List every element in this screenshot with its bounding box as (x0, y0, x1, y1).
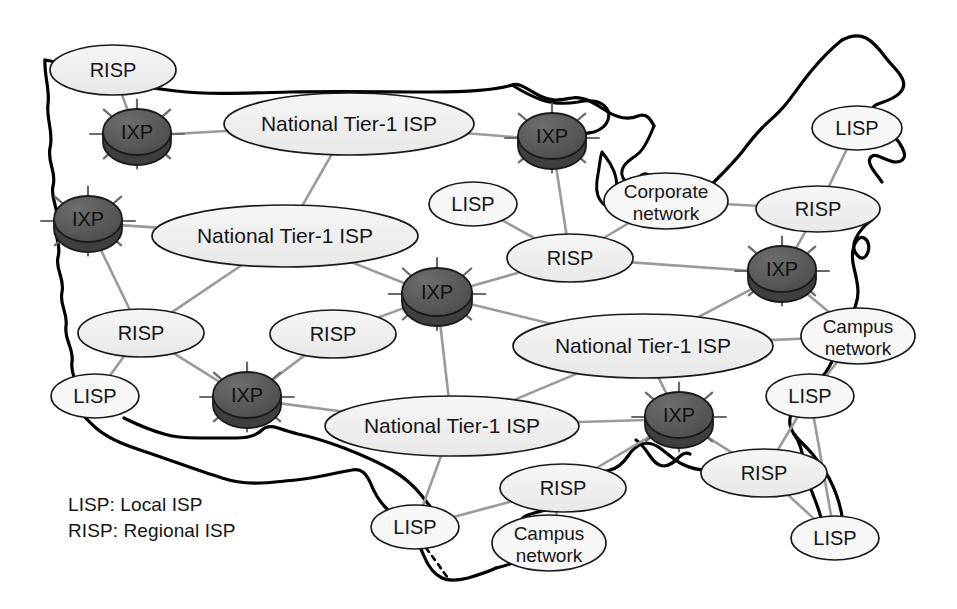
network-link (278, 403, 347, 412)
node-nt1-west[interactable]: National Tier-1 ISP (152, 205, 418, 267)
node-label: RISP (90, 59, 137, 81)
node-label: RISP (310, 323, 357, 345)
node-label: RISP (540, 477, 587, 499)
legend: LISP: Local ISP RISP: Regional ISP (68, 492, 236, 543)
network-link (109, 355, 125, 377)
node-label: LISP (451, 193, 494, 215)
node-label: IXP (421, 281, 453, 303)
network-link (501, 219, 537, 239)
node-nt1-south[interactable]: National Tier-1 ISP (325, 396, 579, 456)
node-lisp-se[interactable]: LISP (766, 374, 854, 418)
node-ixp-west[interactable]: IXP (41, 187, 135, 256)
node-label: National Tier-1 ISP (555, 334, 731, 357)
node-ixp-east[interactable]: IXP (735, 237, 829, 306)
node-nt1-north[interactable]: National Tier-1 ISP (224, 93, 474, 155)
node-ixp-north[interactable]: IXP (505, 104, 599, 173)
network-link (172, 352, 224, 384)
node-ixp-nw[interactable]: IXP (90, 100, 184, 169)
legend-line-risp: RISP: Regional ISP (68, 518, 236, 544)
node-corporate[interactable]: Corporatenetwork (604, 173, 728, 229)
node-risp-ne[interactable]: RISP (756, 186, 880, 232)
network-link (828, 148, 847, 188)
network-link (467, 272, 522, 288)
node-label: LISP (73, 385, 116, 407)
node-campus-east[interactable]: Campusnetwork (801, 308, 915, 364)
node-label: National Tier-1 ISP (261, 112, 437, 135)
node-label: IXP (72, 208, 104, 230)
network-link (602, 222, 631, 239)
node-lisp-south[interactable]: LISP (371, 505, 459, 549)
node-label: IXP (663, 404, 695, 426)
node-label: LISP (813, 527, 856, 549)
node-lisp-far-se[interactable]: LISP (791, 516, 879, 560)
network-link (170, 264, 244, 314)
node-label: IXP (121, 121, 153, 143)
network-link (628, 262, 750, 271)
mid-atlantic-coast-outline (850, 220, 872, 318)
node-risp-w[interactable]: RISP (78, 309, 204, 357)
node-nt1-east[interactable]: National Tier-1 ISP (513, 314, 773, 378)
network-link (302, 153, 333, 207)
network-link (511, 372, 581, 402)
node-ixp-central[interactable]: IXP (389, 258, 486, 330)
node-lisp-ne[interactable]: LISP (812, 106, 902, 150)
node-label: IXP (536, 125, 568, 147)
node-label: Corporatenetwork (624, 181, 709, 224)
node-lisp-w[interactable]: LISP (51, 374, 139, 418)
network-link (787, 494, 815, 520)
network-link (423, 454, 442, 507)
node-label: RISP (795, 198, 842, 220)
node-label: Campusnetwork (823, 316, 894, 359)
node-label: RISP (741, 462, 788, 484)
node-risp-se[interactable]: RISP (701, 449, 827, 497)
node-label: IXP (231, 384, 263, 406)
node-risp-nw[interactable]: RISP (50, 45, 176, 95)
node-risp-center[interactable]: RISP (507, 234, 633, 282)
node-label: National Tier-1 ISP (364, 414, 540, 437)
network-link (440, 319, 449, 398)
node-campus-south[interactable]: Campusnetwork (492, 515, 606, 571)
node-risp-sw[interactable]: RISP (270, 310, 396, 358)
network-link (349, 261, 409, 285)
node-label: IXP (766, 258, 798, 280)
network-link (468, 304, 556, 325)
legend-line-lisp: LISP: Local ISP (68, 492, 236, 518)
node-label: RISP (118, 322, 165, 344)
node-label: RISP (547, 247, 594, 269)
node-label: LISP (788, 385, 831, 407)
node-ixp-sw[interactable]: IXP (200, 363, 294, 432)
node-label: National Tier-1 ISP (197, 224, 373, 247)
network-link (452, 501, 515, 518)
network-link (555, 162, 566, 236)
node-lisp-center[interactable]: LISP (429, 182, 517, 226)
node-ixp-south[interactable]: IXP (632, 383, 726, 452)
network-link (695, 286, 757, 319)
network-link (98, 244, 130, 311)
node-risp-south[interactable]: RISP (500, 464, 626, 512)
node-label: LISP (835, 117, 878, 139)
node-label: LISP (393, 516, 436, 538)
network-diagram-canvas: RISPIXPNational Tier-1 ISPIXPLISPCorpora… (0, 0, 957, 609)
node-label: Campusnetwork (514, 523, 585, 566)
network-link (724, 204, 760, 206)
network-link (461, 133, 520, 138)
network-link (570, 420, 647, 422)
